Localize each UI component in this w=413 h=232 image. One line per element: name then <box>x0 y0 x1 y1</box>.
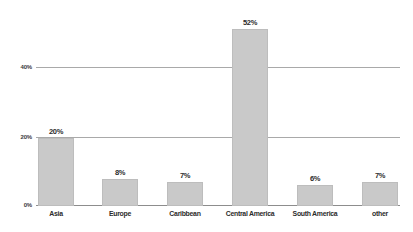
bar-slot-europe: 8% <box>102 10 138 206</box>
bar-slot-asia: 20% <box>38 10 74 206</box>
bar-south-america[interactable] <box>297 185 333 206</box>
category-label-europe: Europe <box>103 209 136 218</box>
bar-caribbean[interactable] <box>167 182 203 206</box>
bar-europe[interactable] <box>102 179 138 206</box>
bar-value-central-america: 52% <box>232 18 268 27</box>
category-label-south-america: South America <box>285 209 346 218</box>
category-label-other: other <box>363 209 396 218</box>
bar-value-south-america: 6% <box>297 174 333 183</box>
plot-area: 40% 20% 0% 20% 8% 7% 52% <box>36 10 402 206</box>
bar-slot-south-america: 6% <box>297 10 333 206</box>
bar-central-america[interactable] <box>232 29 268 206</box>
bar-value-asia: 20% <box>38 127 74 136</box>
category-label-asia: Asia <box>39 209 72 218</box>
category-label-central-america: Central America <box>219 209 282 218</box>
ytick-label-20: 20% <box>21 134 32 140</box>
ytick-label-0: 0% <box>24 202 32 208</box>
bar-slot-other: 7% <box>362 10 398 206</box>
ytick-label-40: 40% <box>21 64 32 70</box>
category-axis: Asia Europe Caribbean Central America So… <box>36 209 402 225</box>
bar-chart: 40% 20% 0% 20% 8% 7% 52% <box>0 0 413 232</box>
category-label-caribbean: Caribbean <box>157 209 212 218</box>
bar-value-europe: 8% <box>102 168 138 177</box>
bar-asia[interactable] <box>38 138 74 206</box>
bars-group: 20% 8% 7% 52% 6% 7% <box>36 10 402 206</box>
bar-slot-caribbean: 7% <box>167 10 203 206</box>
bar-value-caribbean: 7% <box>167 171 203 180</box>
bar-slot-central-america: 52% <box>232 10 268 206</box>
bar-other[interactable] <box>362 182 398 206</box>
bar-value-other: 7% <box>362 171 398 180</box>
